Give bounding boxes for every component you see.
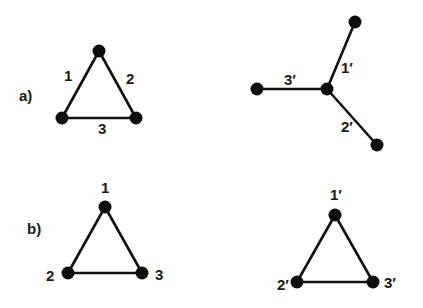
edge-label-3-prime: 3′ (284, 71, 296, 88)
node-3 (136, 267, 149, 280)
panel-a-label: a) (19, 87, 32, 104)
edge-2-prime (327, 89, 377, 145)
edge-1-2 (68, 207, 105, 273)
node-center (321, 83, 334, 96)
node-label-3: 3 (155, 266, 163, 283)
edge-label-1: 1 (64, 67, 72, 84)
edge-label-2-prime: 2′ (341, 118, 353, 135)
edge-1 (62, 51, 99, 118)
triangle-graph-a: 1 2 3 (56, 45, 143, 138)
panel-b: b) 1 2 3 1′ 2′ 3′ (27, 179, 396, 293)
node-1 (99, 201, 112, 214)
edge-label-3: 3 (98, 120, 106, 137)
node-bottom-right (130, 112, 143, 125)
edge-label-1-prime: 1′ (341, 59, 353, 76)
panel-a: a) 1 2 3 1′ 2′ 3′ (19, 16, 384, 152)
edge-label-2: 2 (126, 70, 134, 87)
triangle-graph-b-right: 1′ 2′ 3′ (277, 186, 396, 293)
node-label-1: 1 (101, 179, 109, 196)
star-graph-a: 1′ 2′ 3′ (251, 16, 384, 152)
panel-b-label: b) (27, 220, 41, 237)
node-2-prime (291, 276, 304, 289)
node-label-2-prime: 2′ (277, 276, 289, 293)
node-label-2: 2 (46, 267, 54, 284)
node-2 (62, 267, 75, 280)
edge-1p-2p (297, 215, 335, 282)
triangle-graph-b-left: 1 2 3 (46, 179, 163, 284)
edge-1-prime (327, 22, 355, 89)
node-1-prime (329, 209, 342, 222)
node-top (349, 16, 362, 29)
node-3-prime (367, 276, 380, 289)
edge-1p-3p (335, 215, 373, 282)
graph-diagram: a) 1 2 3 1′ 2′ 3′ b) (0, 0, 423, 308)
node-bottom-left (56, 112, 69, 125)
edge-1-3 (105, 207, 142, 273)
node-top (93, 45, 106, 58)
node-bottom-right (371, 139, 384, 152)
node-label-1-prime: 1′ (330, 186, 342, 203)
node-left (251, 83, 264, 96)
node-label-3-prime: 3′ (384, 274, 396, 291)
